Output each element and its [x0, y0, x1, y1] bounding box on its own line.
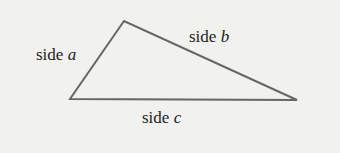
triangle-figure — [0, 0, 340, 153]
label-side-b: side b — [189, 28, 229, 45]
label-side-a: side a — [36, 46, 76, 63]
label-side-c: side c — [142, 109, 181, 126]
triangle — [70, 21, 297, 100]
